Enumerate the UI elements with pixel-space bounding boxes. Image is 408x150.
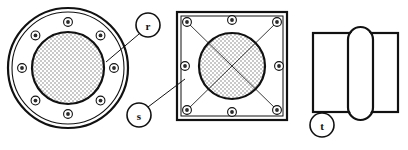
bolt-hole-center: [277, 64, 281, 68]
bolt-hole: [273, 106, 282, 115]
bolt-hole: [183, 106, 192, 115]
bolt-hole-center: [20, 66, 24, 70]
callout-label-t: t: [320, 120, 324, 132]
side-view-capsule-mask: [350, 28, 372, 119]
bolt-hole: [228, 16, 237, 25]
bolt-hole: [31, 31, 40, 40]
callout-t[interactable]: t: [310, 113, 334, 137]
bolt-hole-center: [230, 18, 234, 22]
bolt-hole-center: [99, 34, 103, 38]
bolt-hole: [64, 110, 73, 119]
bolt-hole: [181, 62, 190, 71]
bolt-hole: [64, 18, 73, 27]
drawing-svg: rst: [0, 0, 408, 150]
engineering-drawing-canvas: rst: [0, 0, 408, 150]
side-section-view: [313, 27, 398, 120]
bolt-hole-center: [34, 99, 38, 103]
callout-s[interactable]: s: [127, 103, 151, 127]
bolt-hole: [275, 62, 284, 71]
bolt-hole: [273, 18, 282, 27]
bolt-hole-center: [112, 66, 116, 70]
bolt-hole-center: [183, 64, 187, 68]
bolt-hole: [96, 96, 105, 105]
bolt-hole-center: [275, 108, 279, 112]
bolt-hole-center: [34, 34, 38, 38]
bolt-hole-center: [66, 112, 70, 116]
bolt-hole-center: [185, 20, 189, 24]
callout-label-s: s: [137, 110, 142, 122]
bolt-hole-center: [66, 20, 70, 24]
bolt-hole: [228, 108, 237, 117]
callout-leader-line-s: [148, 79, 185, 107]
callout-leader-line-r: [106, 34, 139, 62]
bolt-hole: [96, 31, 105, 40]
bolt-hole-center: [185, 108, 189, 112]
callout-label-r: r: [146, 20, 151, 32]
callout-r[interactable]: r: [136, 13, 160, 37]
bolt-hole: [31, 96, 40, 105]
round-flange: [8, 8, 128, 128]
bolt-hole: [18, 64, 27, 73]
bolt-hole-center: [275, 20, 279, 24]
bolt-hole: [110, 64, 119, 73]
bolt-hole: [183, 18, 192, 27]
bolt-hole-center: [99, 99, 103, 103]
square-flange: [177, 12, 287, 120]
bolt-hole-center: [230, 110, 234, 114]
